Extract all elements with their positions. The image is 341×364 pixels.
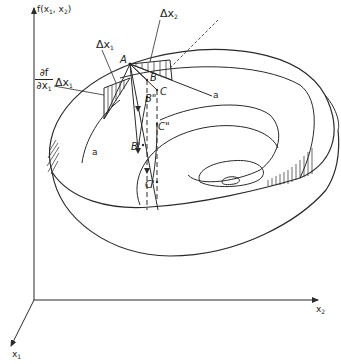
contour-3 <box>137 126 278 205</box>
delta-x2-label: Δx2 <box>160 8 178 20</box>
bowl-rim <box>49 50 334 178</box>
delta-x1-label: Δx1 <box>96 39 114 51</box>
point-A-label: A <box>120 55 127 65</box>
point-C-double-prime-label: C" <box>158 122 170 132</box>
leader-delta-x1 <box>102 50 116 83</box>
x2-axis-label: x2 <box>316 305 325 315</box>
diagram-canvas: f(x1, x2) x2 x1 Δx1 Δx2 ∂f ∂x1 Δx1 A B C… <box>0 0 341 364</box>
left-hatch <box>47 140 59 174</box>
f-axis-label: f(x1, x2) <box>37 5 71 15</box>
x1-axis <box>11 300 34 346</box>
point-C-label: C <box>160 87 167 97</box>
surface-diagram-svg <box>0 0 341 364</box>
point-B-double-prime-label: B" <box>145 94 156 104</box>
point-B-label: B <box>150 73 157 83</box>
gradient-extension <box>170 20 218 68</box>
contour-4 <box>199 160 263 186</box>
partial-times-delta-x1: Δx1 <box>55 77 73 89</box>
partial-derivative-fraction: ∂f ∂x1 <box>35 68 53 92</box>
x1-axis-label: x1 <box>12 350 21 360</box>
line-a-right-label: a <box>213 91 219 100</box>
point-C-prime-label: C' <box>145 180 155 190</box>
line-a-left-label: a <box>92 148 98 157</box>
bowl-inner-lip <box>52 172 300 208</box>
point-B-prime-label: B' <box>131 142 141 152</box>
contour-left-a <box>82 100 120 163</box>
contour-2 <box>160 105 279 182</box>
